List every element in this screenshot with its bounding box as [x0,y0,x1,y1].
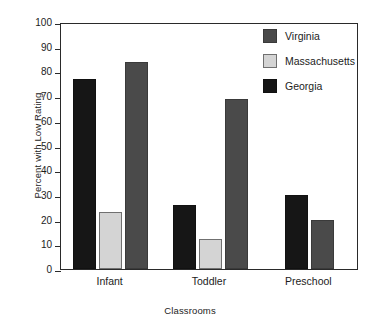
bar-infant-georgia [73,79,96,269]
y-axis-tick [55,49,61,50]
y-axis-tick-label: 80 [0,67,52,77]
y-axis-tick-label: 20 [0,216,52,226]
y-axis-tick-label: 0 [0,265,52,275]
y-axis-tick-label: 60 [0,117,52,127]
legend-label-massachusetts: Massachusetts [285,56,355,67]
bar-toddler-georgia [173,205,196,269]
y-axis-tick-label: 40 [0,166,52,176]
plot-area: VirginiaMassachusettsGeorgia [60,23,358,270]
y-axis-tick-label: 90 [0,43,52,53]
bar-infant-virginia [125,62,148,269]
y-axis-tick [55,271,61,272]
legend-label-virginia: Virginia [285,31,320,42]
y-axis-tick [55,172,61,173]
y-axis-tick [55,197,61,198]
x-axis-tick-label-toddler: Toddler [159,275,258,287]
bar-preschool-georgia [285,195,308,269]
y-axis-tick [55,123,61,124]
legend-item-georgia: Georgia [263,79,355,93]
bar-preschool-virginia [311,220,334,269]
chart-legend: VirginiaMassachusettsGeorgia [263,29,355,93]
y-axis-tick [55,98,61,99]
x-axis-title: Classrooms [0,305,380,316]
legend-item-virginia: Virginia [263,29,355,43]
y-axis-tick-label: 50 [0,142,52,152]
y-axis-title: Percent with Low Rating [32,46,43,246]
y-axis-tick [55,24,61,25]
bar-infant-massachusetts [99,212,122,269]
y-axis-tick-label: 10 [0,240,52,250]
legend-swatch-massachusetts [263,54,277,68]
y-axis-tick-label: 100 [0,18,52,28]
legend-item-massachusetts: Massachusetts [263,54,355,68]
legend-swatch-georgia [263,79,277,93]
y-axis-tick [55,222,61,223]
x-axis-tick-label-infant: Infant [60,275,159,287]
legend-swatch-virginia [263,29,277,43]
bar-toddler-virginia [225,99,248,269]
y-axis-tick [55,73,61,74]
x-axis-tick-label-preschool: Preschool [259,275,358,287]
y-axis-tick-label: 30 [0,191,52,201]
y-axis-tick [55,148,61,149]
y-axis-tick-label: 70 [0,92,52,102]
legend-label-georgia: Georgia [285,81,322,92]
bar-toddler-massachusetts [199,239,222,269]
y-axis-tick [55,246,61,247]
bar-chart-figure: Percent with Low Rating 0102030405060708… [0,0,380,325]
